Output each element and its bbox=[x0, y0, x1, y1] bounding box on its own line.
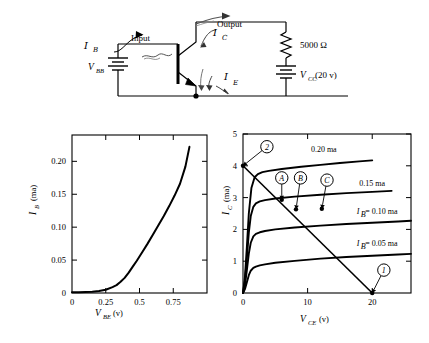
chart1-yticklabel: 2 bbox=[233, 224, 237, 234]
chart1-xlabel-unit: (v) bbox=[319, 314, 329, 324]
chart0-yticklabel: 0.20 bbox=[51, 156, 66, 166]
output-label: Output bbox=[217, 19, 243, 29]
resistor-5000-ohm bbox=[281, 32, 291, 66]
input-label: Input bbox=[131, 33, 150, 43]
chart0-xlabel-unit: (v) bbox=[113, 308, 123, 318]
circuit-diagram: I B Input I C Output I E V BB 5000 Ω V C… bbox=[83, 13, 348, 99]
chart1-leader-marker-1 bbox=[374, 276, 381, 290]
chart1-yticklabel: 1 bbox=[233, 256, 237, 266]
chart1-marker-dot-marker-b bbox=[294, 207, 298, 211]
resistor-label: 5000 Ω bbox=[300, 40, 327, 50]
ie-label-sub: E bbox=[232, 79, 238, 87]
chart1-xlabel-sub: CE bbox=[308, 319, 316, 326]
chart1-curve-label-2: 0.15 ma bbox=[359, 179, 385, 188]
chart1-marker-label-marker-b: B bbox=[298, 174, 303, 183]
ie-label: I bbox=[223, 71, 229, 82]
chart0-ylabel: I bbox=[28, 211, 38, 216]
figure-root: I B Input I C Output I E V BB 5000 Ω V C… bbox=[0, 0, 429, 343]
base-squiggle bbox=[142, 54, 172, 60]
chart0-xlabel-sub: BE bbox=[103, 313, 111, 320]
chart1-leader-marker-2 bbox=[246, 151, 262, 164]
chart1-marker-label-marker-c: C bbox=[324, 176, 330, 185]
chart1-curve-label-rest-0: = 0.05 ma bbox=[365, 239, 398, 248]
chart1-yticklabel: 4 bbox=[233, 161, 238, 171]
ib-label: I bbox=[83, 40, 89, 51]
chart0-xticklabel: 0 bbox=[70, 297, 74, 307]
chart0-xticklabel: 0.75 bbox=[166, 297, 181, 307]
chart1-marker-label-marker-a: A bbox=[278, 174, 284, 183]
chart-input-characteristic: 00.250.50.750.050.100.150.200 V BE (v) I… bbox=[28, 135, 207, 320]
chart0-xlabel: V bbox=[95, 308, 102, 318]
chart1-marker-label-marker-1: 1 bbox=[382, 266, 386, 275]
chart1-ylabel: I bbox=[221, 211, 231, 216]
chart1-yticklabel: 5 bbox=[233, 129, 237, 139]
chart1-curve-label-3: 0.20 ma bbox=[311, 145, 337, 154]
chart0-ylabel-sub: B bbox=[33, 205, 40, 209]
ib-label-sub: B bbox=[92, 46, 98, 54]
vcc-label: V bbox=[300, 70, 307, 80]
chart1-marker-dot-marker-2 bbox=[241, 164, 245, 168]
chart1-marker-dot-marker-a bbox=[280, 198, 284, 202]
chart0-yticklabel-zero: 0 bbox=[62, 288, 66, 298]
chart1-xticklabel: 20 bbox=[368, 297, 377, 307]
chart1-curve-label-rest-1: = 0.10 ma bbox=[365, 207, 398, 216]
chart0-yticklabel: 0.15 bbox=[51, 189, 66, 199]
chart1-marker-dot-marker-c bbox=[320, 207, 324, 211]
figure-svg: I B Input I C Output I E V BB 5000 Ω V C… bbox=[0, 0, 429, 343]
chart1-xticklabel: 10 bbox=[303, 297, 312, 307]
chart0-ylabel-unit: (ma) bbox=[28, 185, 38, 201]
chart1-marker-dot-marker-1 bbox=[370, 291, 374, 295]
chart-output-characteristic: 01020012345IB = 0.05 maIB = 0.10 ma0.15 … bbox=[221, 129, 411, 326]
chart1-xticklabel: 0 bbox=[241, 297, 245, 307]
chart1-curve-label-1: I bbox=[356, 207, 360, 216]
chart1-ylabel-unit: (ma) bbox=[221, 186, 231, 202]
ic-label-sub: C bbox=[222, 34, 228, 42]
chart1-marker-label-marker-2: 2 bbox=[265, 143, 269, 152]
vcc-value-label: (20 v) bbox=[315, 70, 337, 80]
chart1-xlabel: V bbox=[300, 314, 307, 324]
chart1-yticklabel: 0 bbox=[233, 288, 237, 298]
chart0-curve bbox=[72, 147, 189, 292]
chart0-yticklabel: 0.05 bbox=[51, 255, 66, 265]
vcc-battery-symbol bbox=[276, 66, 296, 96]
vbb-battery-symbol bbox=[108, 58, 128, 96]
chart0-yticklabel: 0.10 bbox=[51, 222, 66, 232]
chart1-curve-1 bbox=[243, 221, 411, 293]
chart1-ylabel-sub: C bbox=[226, 205, 233, 210]
chart0-xticklabel: 0.25 bbox=[98, 297, 113, 307]
vbb-label-sub: BB bbox=[96, 67, 104, 74]
vbb-label: V bbox=[88, 62, 95, 72]
chart1-yticklabel: 3 bbox=[233, 193, 237, 203]
chart1-leader-marker-b bbox=[297, 184, 300, 205]
chart1-curve-label-0: I bbox=[356, 239, 360, 248]
chart0-xticklabel: 0.5 bbox=[134, 297, 145, 307]
npn-transistor-symbol bbox=[178, 22, 199, 99]
chart1-load-line bbox=[243, 166, 372, 293]
